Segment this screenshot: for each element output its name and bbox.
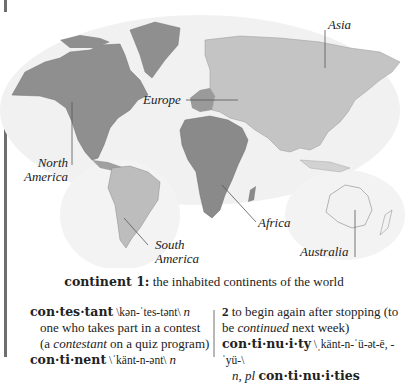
example-italic: continued <box>238 320 289 335</box>
label-south-america-line1: South <box>155 238 199 252</box>
map-caption: continent 1: the inhabited continents of… <box>0 274 408 290</box>
example-continued: be continued next week) <box>222 320 406 336</box>
pos-contestant: n <box>184 304 191 319</box>
pronunciation-continent: \ˈkänt-n-ənt\ <box>106 354 169 366</box>
example-open: (a <box>40 336 53 351</box>
example-italic: contestant <box>53 336 106 351</box>
caption-term: continent 1: <box>64 274 149 289</box>
entry-continuity: con·ti·nu·i·ty \ˌkänt-n-ˈü-ət-ē, -ˈyü-\ <box>222 336 406 368</box>
example-open: be <box>222 320 238 335</box>
label-africa: Africa <box>258 216 291 230</box>
caption-text: the inhabited continents of the world <box>149 274 343 289</box>
sense-continue-2: 2 to begin again after stopping (to <box>222 304 406 320</box>
sense-definition: to begin again after stopping (to <box>229 304 399 319</box>
label-south-america-line2: America <box>155 252 199 266</box>
pos-continent: n <box>169 352 176 367</box>
label-north-america-line1: North <box>14 156 68 170</box>
entry-contestant: con·tes·tant \kən-ˈtes-tənt\ n <box>30 304 210 320</box>
world-map: Asia Europe North America South America … <box>0 0 408 268</box>
dictionary-column-right: 2 to begin again after stopping (to be c… <box>222 304 406 384</box>
headword-contestant: con·tes·tant <box>30 304 113 319</box>
label-australia: Australia <box>300 245 348 259</box>
column-divider <box>213 310 215 357</box>
label-north-america-line2: America <box>14 170 68 184</box>
label-south-america: South America <box>155 238 199 266</box>
label-north-america: North America <box>14 156 68 184</box>
example-close: on a quiz program) <box>107 336 210 351</box>
headword-continuity: con·ti·nu·i·ty <box>222 336 311 351</box>
definition-contestant: one who takes part in a contest <box>30 320 210 336</box>
plural-form: con·ti·nu·i·ties <box>258 368 359 383</box>
world-map-graphic <box>0 0 408 268</box>
entry-continent: con·ti·nent \ˈkänt-n-ənt\ n <box>30 352 210 368</box>
pronunciation-contestant: \kən-ˈtes-tənt\ <box>113 306 183 318</box>
pos-plural-label: n, pl <box>232 368 258 383</box>
label-europe: Europe <box>143 93 181 107</box>
example-contestant: (a contestant on a quiz program) <box>30 336 210 352</box>
plural-continuity: n, pl con·ti·nu·i·ties <box>222 368 406 384</box>
example-close: next week) <box>289 320 350 335</box>
dictionary-column-left: con·tes·tant \kən-ˈtes-tənt\ n one who t… <box>30 304 210 368</box>
headword-continent: con·ti·nent <box>30 352 106 367</box>
label-asia: Asia <box>328 18 351 32</box>
